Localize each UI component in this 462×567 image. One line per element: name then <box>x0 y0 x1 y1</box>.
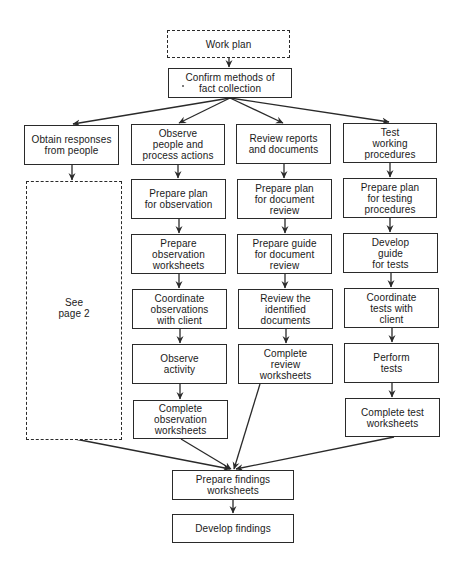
node-label: See page 2 <box>58 297 89 319</box>
node-prepare-plan-testing: Prepare plan for testing procedures <box>343 178 437 218</box>
node-work-plan: Work plan <box>167 30 290 58</box>
node-label: Review the identified documents <box>260 293 310 326</box>
node-obtain-responses: Obtain responses from people <box>24 125 119 165</box>
node-label: Review reports and documents <box>249 133 319 155</box>
node-observe-activity: Observe activity <box>132 344 227 384</box>
node-complete-observation-worksheets: Complete observation worksheets <box>133 400 228 439</box>
node-test-procedures: Test working procedures <box>343 123 437 163</box>
node-label: Develop guide for tests <box>372 237 409 270</box>
scan-artifact-dot <box>182 85 184 87</box>
node-confirm-methods: Confirm methods of fact collection <box>168 68 292 98</box>
node-review-reports: Review reports and documents <box>236 124 331 164</box>
node-complete-test-worksheets: Complete test worksheets <box>345 398 440 437</box>
node-label: Complete review worksheets <box>260 348 312 381</box>
node-label: Work plan <box>206 39 252 50</box>
node-review-identified-documents: Review the identified documents <box>238 289 333 329</box>
node-label: Observe people and process actions <box>143 128 214 161</box>
node-label: Prepare plan for testing procedures <box>361 182 419 215</box>
node-label: Complete observation worksheets <box>154 403 207 436</box>
node-label: Prepare plan for observation <box>145 188 213 210</box>
node-prepare-plan-observation: Prepare plan for observation <box>131 179 226 219</box>
node-label: Observe activity <box>160 353 199 375</box>
node-coordinate-observations: Coordinate observations with client <box>132 289 227 329</box>
node-develop-guide-tests: Develop guide for tests <box>343 233 438 273</box>
node-perform-tests: Perform tests <box>344 343 439 383</box>
node-observe-people: Observe people and process actions <box>131 124 225 165</box>
node-see-page-2: See page 2 <box>26 181 122 440</box>
node-label: Coordinate tests with client <box>367 292 417 325</box>
node-label: Prepare plan for document review <box>255 183 315 216</box>
node-complete-review-worksheets: Complete review worksheets <box>238 344 333 384</box>
node-coordinate-tests: Coordinate tests with client <box>344 288 439 328</box>
node-label: Test working procedures <box>364 127 415 160</box>
node-label: Obtain responses from people <box>32 134 112 156</box>
node-prepare-guide-document-review: Prepare guide for document review <box>237 234 332 274</box>
node-label: Prepare guide for document review <box>252 238 316 271</box>
node-label: Develop findings <box>195 523 271 534</box>
node-label: Prepare observation worksheets <box>152 238 205 271</box>
flowchart-canvas: Work plan Confirm methods of fact collec… <box>0 0 462 567</box>
node-label: Complete test worksheets <box>361 407 424 429</box>
node-label: Coordinate observations with client <box>151 293 209 326</box>
node-prepare-findings-worksheets: Prepare findings worksheets <box>172 470 294 500</box>
node-label: Prepare findings worksheets <box>196 474 270 496</box>
node-label: Confirm methods of fact collection <box>185 72 274 94</box>
node-prepare-plan-document-review: Prepare plan for document review <box>237 179 332 219</box>
node-prepare-observation-worksheets: Prepare observation worksheets <box>131 234 226 274</box>
node-develop-findings: Develop findings <box>172 514 294 543</box>
node-label: Perform tests <box>373 352 409 374</box>
